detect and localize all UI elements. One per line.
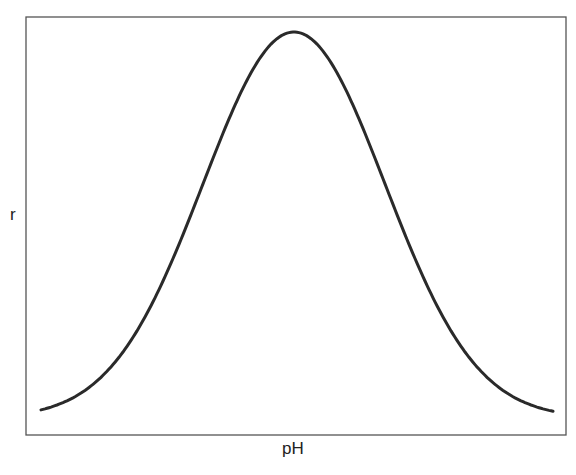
x-axis-label: pH	[282, 439, 304, 459]
bell-curve-line	[41, 32, 553, 411]
y-axis-label: r	[10, 205, 16, 225]
chart-area	[0, 0, 576, 475]
